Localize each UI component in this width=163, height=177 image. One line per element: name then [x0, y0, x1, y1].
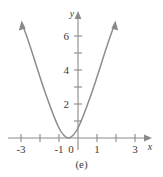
figure-caption: (e) — [0, 158, 163, 170]
x-axis-label: x — [147, 141, 153, 152]
y-axis-arrow-icon — [75, 11, 82, 19]
x-ticklabel--1: -1 — [54, 143, 63, 155]
x-ticklabel-3: 3 — [132, 143, 138, 155]
x-ticklabel-0: 0 — [68, 143, 74, 155]
y-axis-label: y — [69, 8, 75, 19]
x-ticklabel-1: 1 — [94, 143, 100, 155]
y-ticklabel-2: 2 — [64, 98, 70, 110]
y-ticklabel-6: 6 — [64, 30, 70, 42]
x-ticklabel--3: -3 — [16, 143, 26, 155]
y-ticklabel-4: 4 — [64, 64, 70, 76]
parabola-plot: -3 -1 0 1 3 2 4 6 y x — [0, 0, 163, 177]
parabola-curve — [24, 28, 114, 139]
figure-container: -3 -1 0 1 3 2 4 6 y x (e) — [0, 0, 163, 177]
